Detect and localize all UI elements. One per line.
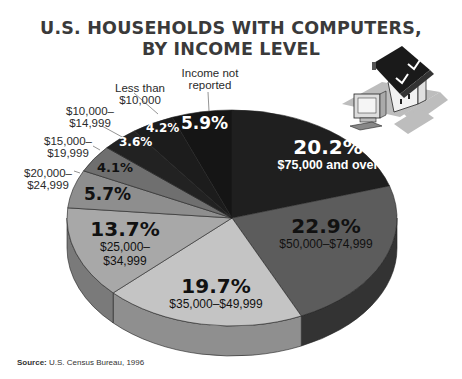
label-line: reported (170, 79, 250, 91)
outside-label-20k-25k: $20,000– $24,999 (18, 167, 78, 191)
slice-pct: 13.7% (80, 218, 170, 240)
slice-name-1: $25,000– (80, 240, 170, 254)
outside-label-not-reported: Income not reported (170, 67, 250, 91)
slice-pct-under-10k: 4.2% (146, 121, 179, 135)
label-line: $10,000– (60, 105, 120, 117)
slice-label-75k-plus: 20.2% $75,000 and over (258, 136, 398, 173)
slice-pct-10k-15k: 3.6% (119, 135, 152, 149)
slice-pct-20k-25k: 5.7% (84, 184, 131, 204)
slice-name: $35,000–$49,999 (146, 297, 286, 311)
source-text: U.S. Census Bureau, 1996 (49, 358, 144, 367)
slice-label-35k-50k: 19.7% $35,000–$49,999 (146, 275, 286, 311)
slice-label-25k-35k: 13.7% $25,000– $34,999 (80, 218, 170, 268)
label-line: Less than (110, 82, 170, 94)
label-line: $14,999 (60, 117, 120, 129)
slice-name: $50,000–$74,999 (256, 237, 396, 251)
outside-label-10k-15k: $10,000– $14,999 (60, 105, 120, 129)
house-with-computer-icon (342, 46, 448, 134)
label-line: $20,000– (18, 167, 78, 179)
label-line: $15,000– (38, 135, 98, 147)
label-line: Income not (170, 67, 250, 79)
slice-label-50k-75k: 22.9% $50,000–$74,999 (256, 215, 396, 251)
source-note: Source: U.S. Census Bureau, 1996 (17, 358, 144, 367)
slice-pct: 22.9% (256, 215, 396, 237)
slice-pct-15k-20k: 4.1% (97, 160, 133, 175)
slice-name-2: $34,999 (80, 254, 170, 268)
slice-pct-not-reported: 5.9% (181, 113, 228, 133)
label-line: $10,000 (110, 94, 170, 106)
slice-name: $75,000 and over (258, 158, 398, 173)
label-line: $24,999 (18, 179, 78, 191)
label-line: $19,999 (38, 147, 98, 159)
outside-label-15k-20k: $15,000– $19,999 (38, 135, 98, 159)
slice-pct: 20.2% (258, 136, 398, 158)
slice-pct: 19.7% (146, 275, 286, 297)
source-label: Source: (17, 358, 47, 367)
outside-label-under-10k: Less than $10,000 (110, 82, 170, 106)
